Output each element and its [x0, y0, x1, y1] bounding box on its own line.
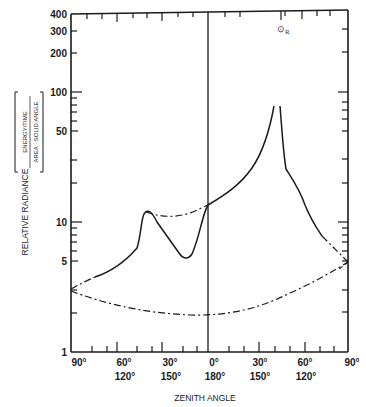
units-bracket-close [40, 92, 43, 172]
x-tick-90-left: 90° [71, 357, 86, 368]
x-tick-labels-row2: 120° 150° 180° 150° 120° [115, 371, 317, 382]
y-axis-title: RELATIVE RADIANCE [20, 168, 30, 255]
series-lower-dashdot-tail [338, 262, 348, 270]
top-axis [71, 10, 348, 14]
x-tick-150-right: 150° [250, 371, 271, 382]
y-tick-1: 1 [61, 347, 67, 358]
x-tick-90-right: 90° [344, 357, 359, 368]
x-tick-120-left: 120° [115, 371, 136, 382]
y-tick-50: 50 [56, 126, 68, 137]
x-tick-150-left: 150° [161, 371, 182, 382]
sun-reflection-marker: ⊙R [277, 24, 290, 36]
y-axis-units: ENERGY/TIME AREA · SOLID ANGLE [15, 92, 43, 172]
y-tick-400: 400 [50, 9, 67, 20]
series-upper-dashdot-right [322, 236, 348, 262]
y-tick-labels: 1 5 10 50 100 200 300 400 [50, 9, 67, 358]
series-upper-dashdot-middle [146, 205, 208, 216]
radiance-chart: 1 5 10 50 100 200 300 400 90° 60° 30° 0°… [0, 0, 366, 407]
y-tick-5: 5 [61, 256, 67, 267]
series-upper-dashdot [71, 277, 95, 289]
units-denominator: AREA · SOLID ANGLE [33, 101, 39, 162]
units-bracket-open [15, 92, 18, 172]
left-y-ticks [71, 31, 82, 313]
series-measured-solid-right [280, 106, 322, 236]
x-axis-title: ZENITH ANGLE [174, 393, 236, 403]
y-tick-200: 200 [50, 48, 67, 59]
x-tick-30-left: 30° [162, 357, 177, 368]
x-tick-0: 0° [209, 357, 219, 368]
x-tick-30-right: 30° [252, 357, 267, 368]
bottom-x-ticks [92, 342, 334, 352]
series-measured-solid [95, 106, 274, 277]
series-lower-dashdot [71, 262, 348, 315]
x-tick-60-left: 60° [116, 357, 131, 368]
y-tick-300: 300 [50, 26, 67, 37]
x-tick-60-right: 60° [297, 357, 312, 368]
sun-symbol-icon: ⊙ [277, 24, 285, 34]
y-tick-10: 10 [56, 217, 68, 228]
x-tick-labels-row1: 90° 60° 30° 0° 30° 60° 90° [71, 357, 359, 368]
y-tick-100: 100 [50, 87, 67, 98]
plot-frame [71, 10, 348, 352]
units-numerator: ENERGY/TIME [22, 111, 28, 152]
y-axis-title-group: RELATIVE RADIANCE [20, 168, 30, 255]
right-y-ticks [338, 29, 348, 312]
x-tick-180: 180° [205, 371, 226, 382]
x-tick-120-right: 120° [296, 371, 317, 382]
